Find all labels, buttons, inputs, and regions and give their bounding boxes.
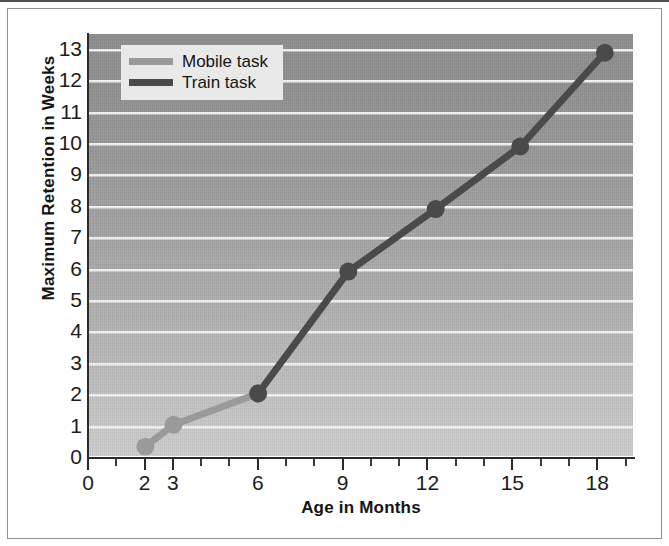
x-axis-minor-tick (483, 459, 485, 466)
x-axis-tick (342, 459, 344, 470)
x-axis-minor-tick (398, 459, 400, 466)
x-axis-tick (87, 459, 89, 470)
x-axis-tick (172, 459, 174, 470)
data-point-marker[interactable] (511, 138, 529, 156)
x-axis-tick (596, 459, 598, 470)
y-axis-tick-label: 0 (52, 446, 82, 467)
x-axis-tick-label: 18 (577, 472, 617, 493)
y-axis-tick-label: 3 (52, 352, 82, 373)
x-axis-minor-tick (540, 459, 542, 466)
x-axis-tick (511, 459, 513, 470)
x-axis-minor-tick (228, 459, 230, 466)
y-axis-tick-label: 2 (52, 383, 82, 404)
y-axis-tick-label: 1 (52, 415, 82, 436)
series-train-task (249, 44, 614, 403)
legend-item-train-task[interactable]: Train task (129, 72, 275, 93)
x-axis-line (87, 457, 635, 459)
series-line (258, 53, 605, 394)
x-axis-minor-tick (200, 459, 202, 466)
data-point-marker[interactable] (339, 263, 357, 281)
data-point-marker[interactable] (136, 438, 154, 456)
series-line (145, 393, 258, 446)
figure-container: 012345678910111213 02369121518 Maximum R… (0, 0, 669, 546)
data-point-marker[interactable] (596, 44, 614, 62)
data-point-marker[interactable] (427, 200, 445, 218)
x-axis-minor-tick (285, 459, 287, 466)
x-axis-minor-tick (568, 459, 570, 466)
x-axis-minor-tick (313, 459, 315, 466)
x-axis-minor-tick (455, 459, 457, 466)
y-axis-title: Maximum Retention in Weeks (39, 33, 59, 323)
legend-item-mobile-task[interactable]: Mobile task (129, 51, 275, 72)
series-mobile-task (136, 385, 267, 456)
x-axis-tick-label: 9 (323, 472, 363, 493)
legend-swatch-train-task (129, 79, 173, 86)
x-axis-minor-tick (625, 459, 627, 466)
x-axis-tick (257, 459, 259, 470)
data-point-marker[interactable] (165, 416, 183, 434)
x-axis-tick-label: 6 (238, 472, 278, 493)
y-axis-tick-label: 4 (52, 320, 82, 341)
x-axis-tick (426, 459, 428, 470)
x-axis-title: Age in Months (88, 498, 634, 518)
page-top-rule (0, 0, 669, 2)
x-axis-tick-label: 12 (407, 472, 447, 493)
legend-label-mobile-task: Mobile task (182, 53, 268, 70)
data-point-marker[interactable] (249, 385, 267, 403)
x-axis-tick-label: 0 (68, 472, 108, 493)
x-axis-tick-label: 3 (153, 472, 193, 493)
legend-swatch-mobile-task (129, 58, 173, 65)
legend-label-train-task: Train task (182, 74, 256, 91)
x-axis-tick-label: 15 (492, 472, 532, 493)
x-axis-minor-tick (115, 459, 117, 466)
x-axis-tick (144, 459, 146, 470)
chart-legend: Mobile task Train task (121, 45, 283, 100)
x-axis-minor-tick (370, 459, 372, 466)
